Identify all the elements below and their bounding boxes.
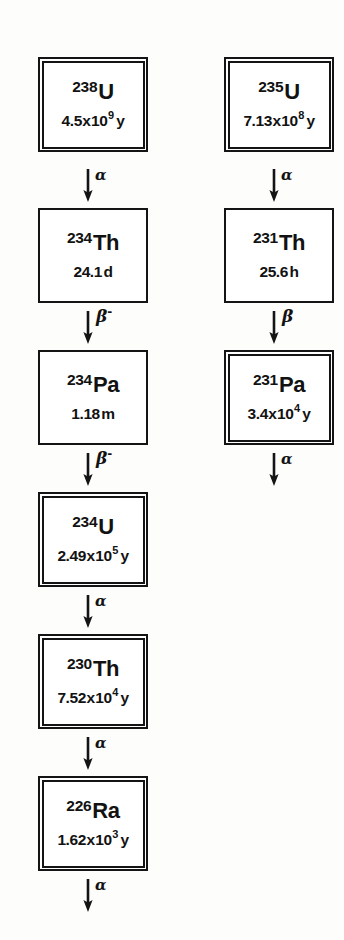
half-life-mantissa: 2.49 [57,548,86,564]
half-life-unit: y [306,113,314,129]
arrow-glyph-icon [38,874,148,917]
nuclide-box-contents: 235U7.13x108y [224,57,334,152]
decay-mode-label-alpha: α [95,878,107,893]
half-life-base: 10 [91,113,107,129]
half-life: 1.18m [71,406,114,422]
half-life-exponent: 4 [294,403,300,414]
mass-number: 234 [67,372,92,388]
arrow-glyph-icon [224,164,334,207]
half-life-exponent: 4 [112,687,118,698]
nuclide-label: 231Th [253,232,305,254]
half-life: 3.4x104y [248,406,311,422]
nuclide-label: 238U [72,81,113,103]
nuclide-label: 234Pa [67,374,119,396]
arrow-glyph-icon [38,306,148,349]
decay-mode-label-alpha: α [281,452,293,467]
nuclide-label: 226Ra [66,800,119,822]
half-life-mantissa: 7.13 [243,113,272,129]
half-life-mantissa: 4.5 [62,113,82,129]
half-life-mantissa: 24.1 [73,264,102,280]
nuclide-box-th-231: 231Th25.6h [224,208,334,303]
half-life-base: 10 [95,548,111,564]
element-symbol: Pa [279,374,305,396]
decay-arrow-pa231-to-next: α [224,448,334,491]
element-symbol: U [284,81,300,103]
nuclide-label: 234U [72,516,113,538]
half-life-unit: h [290,264,299,280]
decay-mode-label-beta: β [282,308,293,325]
half-life-mantissa: 1.18 [71,406,100,422]
nuclide-box-contents: 231Pa3.4x104y [224,350,334,445]
multiplication-sign: x [82,113,90,129]
nuclide-box-contents: 230Th7.52x104y [38,634,148,729]
arrow-glyph-icon [224,306,334,349]
decay-mode-label-beta: β- [96,450,112,467]
arrow-glyph-icon [38,164,148,207]
decay-arrow-pa234-to-u234: β- [38,448,148,491]
element-symbol: U [98,516,114,538]
nuclide-label: 230Th [67,658,119,680]
element-symbol: Ra [92,800,119,822]
decay-arrow-th231-to-pa231: β [224,306,334,349]
half-life-exponent: 3 [112,829,118,840]
decay-series-diagram: αβ-β-ααα238U4.5x109y234Th24.1d234Pa1.18m… [0,0,344,940]
nuclide-box-contents: 234U2.49x105y [38,492,148,587]
element-symbol: Th [93,232,119,254]
mass-number: 235 [258,79,283,95]
multiplication-sign: x [86,548,94,564]
half-life: 7.13x108y [243,113,314,129]
decay-mode-label-beta: β- [96,308,112,325]
half-life-mantissa: 1.62 [57,832,86,848]
half-life-mantissa: 25.6 [259,264,288,280]
nuclide-box-th-230: 230Th7.52x104y [38,634,148,729]
nuclide-box-contents: 234Th24.1d [38,208,148,303]
decay-arrow-th230-to-ra226: α [38,732,148,775]
half-life-base: 10 [95,690,111,706]
half-life-unit: y [120,690,128,706]
nuclide-box-contents: 231Th25.6h [224,208,334,303]
half-life-unit: y [302,406,310,422]
decay-mode-label-alpha: α [95,736,107,751]
nuclide-box-contents: 226Ra1.62x103y [38,776,148,871]
nuclide-box-ra-226: 226Ra1.62x103y [38,776,148,871]
half-life: 2.49x105y [57,548,128,564]
multiplication-sign: x [86,690,94,706]
half-life-unit: y [116,113,124,129]
decay-charge-superscript: - [107,447,112,461]
mass-number: 231 [253,230,278,246]
mass-number: 234 [67,230,92,246]
decay-mode-label-alpha: α [95,168,107,183]
decay-mode-label-alpha: α [281,168,293,183]
half-life-exponent: 5 [112,545,118,556]
arrow-glyph-icon [224,448,334,491]
half-life: 7.52x104y [57,690,128,706]
mass-number: 238 [72,79,97,95]
nuclide-box-contents: 234Pa1.18m [38,350,148,445]
element-symbol: Th [93,658,119,680]
mass-number: 231 [253,372,278,388]
decay-arrow-u234-to-th230: α [38,590,148,633]
mass-number: 230 [67,656,92,672]
half-life: 4.5x109y [62,113,125,129]
half-life-unit: y [120,832,128,848]
nuclide-box-contents: 238U4.5x109y [38,57,148,152]
half-life-base: 10 [277,406,293,422]
half-life-base: 10 [95,832,111,848]
half-life-exponent: 9 [108,110,114,121]
half-life-unit: m [101,406,114,422]
half-life-unit: d [104,264,113,280]
nuclide-box-th-234: 234Th24.1d [38,208,148,303]
half-life: 24.1d [73,264,112,280]
half-life-mantissa: 3.4 [248,406,268,422]
nuclide-box-pa-234: 234Pa1.18m [38,350,148,445]
nuclide-box-u-235: 235U7.13x108y [224,57,334,152]
element-symbol: Pa [93,374,119,396]
half-life-unit: y [120,548,128,564]
multiplication-sign: x [268,406,276,422]
half-life-exponent: 8 [298,110,304,121]
decay-arrow-th234-to-pa234: β- [38,306,148,349]
nuclide-box-u-238: 238U4.5x109y [38,57,148,152]
element-symbol: Th [279,232,305,254]
decay-mode-label-alpha: α [95,594,107,609]
decay-arrow-ra226-to-next: α [38,874,148,917]
